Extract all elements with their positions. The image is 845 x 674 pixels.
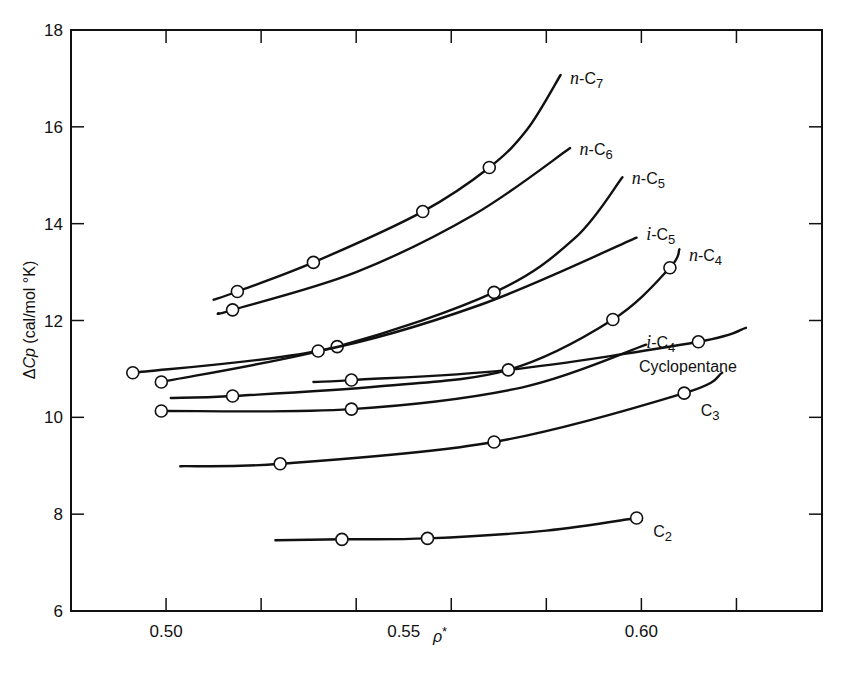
data-point-marker [502, 364, 514, 376]
data-point-marker [274, 458, 286, 470]
data-point-marker [307, 256, 319, 268]
data-point-marker [345, 403, 357, 415]
series-line [161, 177, 622, 382]
y-tick-label: 10 [44, 408, 63, 427]
series-line [180, 373, 722, 467]
series-line [275, 518, 636, 540]
data-point-marker [155, 376, 167, 388]
data-point-marker [421, 532, 433, 544]
data-point-marker [607, 314, 619, 326]
series-label-i-c5: i-C5 [646, 224, 675, 247]
data-point-marker [488, 436, 500, 448]
series-label-n-c7: n-C7 [570, 68, 603, 91]
data-point-marker [227, 304, 239, 316]
data-point-marker [336, 533, 348, 545]
series-n-c5 [155, 177, 622, 388]
x-axis-title-symbol: ρ [432, 628, 442, 645]
x-axis-title: ρ* [432, 624, 447, 645]
plot-frame [71, 30, 822, 611]
series-i-c5 [127, 238, 637, 379]
data-point-marker [664, 262, 676, 274]
data-point-marker [312, 345, 324, 357]
y-tick-label: 6 [54, 602, 63, 621]
series-n-c7 [214, 75, 561, 300]
y-tick-label: 18 [44, 21, 63, 40]
series-label-c2: C2 [653, 523, 672, 544]
x-tick-label: 0.50 [150, 622, 183, 641]
data-point-marker [488, 286, 500, 298]
series-labels: n-C7n-C6n-C5i-C5n-C4i-C4CyclopentaneC3C2 [570, 68, 737, 544]
data-point-marker [127, 367, 139, 379]
x-tick-label: 0.55 [387, 622, 420, 641]
x-axis-title-superscript: * [442, 624, 447, 639]
series-n-c4 [171, 249, 680, 402]
y-axis-title-units: (cal/mol °K) [21, 261, 38, 348]
data-point-marker [231, 285, 243, 297]
data-point-marker [678, 387, 690, 399]
data-point-marker [227, 390, 239, 402]
series-line [218, 148, 570, 314]
series-c2 [275, 512, 642, 545]
y-axis-title-delta: Δ [21, 368, 38, 379]
y-tick-label: 16 [44, 118, 63, 137]
y-tick-label: 12 [44, 312, 63, 331]
x-tick-label: 0.60 [625, 622, 658, 641]
chart: 0.500.550.60 681012141618 n-C7n-C6n-C5i-… [0, 0, 845, 674]
series-c3 [180, 373, 722, 470]
series-label-i-c4: i-C4 [646, 332, 675, 355]
series-label-cyclopentane: Cyclopentane [639, 358, 737, 375]
y-axis-title: ΔCp (cal/mol °K) [21, 261, 38, 379]
y-axis-title-variable: Cp [21, 348, 38, 369]
series-line [214, 75, 561, 300]
data-point-marker [155, 405, 167, 417]
series-label-c3: C3 [701, 402, 720, 423]
series-layer [127, 75, 746, 545]
data-point-marker [345, 374, 357, 386]
y-tick-label: 14 [44, 215, 63, 234]
y-tick-label: 8 [54, 505, 63, 524]
series-label-n-c5: n-C5 [632, 168, 665, 191]
data-point-marker [483, 162, 495, 174]
series-label-n-c6: n-C6 [580, 139, 613, 162]
data-point-marker [692, 336, 704, 348]
series-label-n-c4: n-C4 [689, 245, 722, 268]
data-point-marker [631, 512, 643, 524]
series-line [133, 238, 637, 373]
data-point-marker [417, 206, 429, 218]
series-i-c4 [155, 345, 646, 417]
